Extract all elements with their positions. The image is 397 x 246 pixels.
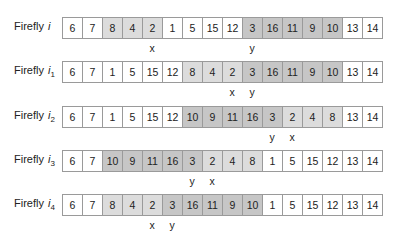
permutation-cell: 14 [363,151,383,171]
position-marker-x: x [222,86,242,98]
permutation-cell: 6 [63,18,83,38]
permutation-cell: 4 [223,151,243,171]
permutation-cell: 15 [143,62,163,82]
permutation-cell: 5 [283,195,303,215]
permutation-cell: 3 [243,18,263,38]
permutation-cells: 67109111632481515121314 [62,150,383,172]
permutation-cell: 4 [203,62,223,82]
permutation-cell: 16 [163,151,183,171]
permutation-cell: 7 [83,18,103,38]
permutation-cell: 6 [63,107,83,127]
permutation-cell: 11 [283,18,303,38]
permutation-cell: 8 [323,107,343,127]
row-label-subscript: 2 [50,115,54,124]
permutation-cell: 5 [283,151,303,171]
permutation-cell: 3 [263,107,283,127]
permutation-cell: 8 [103,18,123,38]
permutation-cells: 67842316119101515121314 [62,194,383,216]
row-label: Fireflyi4 [14,197,55,212]
permutation-cell: 11 [223,107,243,127]
permutation-cell: 6 [63,151,83,171]
position-marker-y: y [182,175,202,187]
position-marker-y: y [162,219,182,231]
permutation-cell: 14 [363,18,383,38]
permutation-cell: 15 [143,107,163,127]
permutation-cell: 12 [223,18,243,38]
permutation-cell: 10 [183,107,203,127]
permutation-cell: 14 [363,62,383,82]
permutation-cell: 13 [343,107,363,127]
permutation-cell: 12 [163,62,183,82]
permutation-cell: 12 [163,107,183,127]
permutation-cell: 2 [143,195,163,215]
row-label-subscript: 3 [50,159,54,168]
permutation-cell: 11 [143,151,163,171]
permutation-cell: 1 [263,151,283,171]
permutation-cell: 3 [243,62,263,82]
permutation-cells: 67842151512316119101314 [62,17,383,39]
row-label-prefix: Firefly [14,197,44,209]
permutation-cell: 13 [343,151,363,171]
permutation-cell: 14 [363,195,383,215]
permutation-cell: 6 [63,62,83,82]
permutation-cell: 8 [103,195,123,215]
permutation-cell: 7 [83,195,103,215]
position-marker-x: x [282,131,302,143]
permutation-cell: 7 [83,107,103,127]
permutation-cell: 9 [203,107,223,127]
row-label-prefix: Firefly [14,64,44,76]
permutation-cell: 9 [123,151,143,171]
row-label-prefix: Firefly [14,20,44,32]
permutation-cells: 67151512842316119101314 [62,61,383,83]
row-label-prefix: Firefly [14,153,44,165]
permutation-cell: 15 [303,151,323,171]
row-label: Fireflyi2 [14,109,55,124]
permutation-cell: 11 [203,195,223,215]
firefly-row: Fireflyi167151512842316119101314 [0,61,397,83]
permutation-cell: 13 [343,62,363,82]
permutation-cell: 2 [223,62,243,82]
firefly-row: Fireflyi267151512109111632481314 [0,106,397,128]
permutation-cell: 16 [263,62,283,82]
permutation-cell: 1 [103,107,123,127]
position-marker-x: x [142,42,162,54]
permutation-cell: 1 [163,18,183,38]
permutation-cell: 16 [183,195,203,215]
firefly-row: Fireflyi67842151512316119101314 [0,17,397,39]
permutation-cell: 13 [343,18,363,38]
permutation-cell: 2 [143,18,163,38]
permutation-cell: 7 [83,151,103,171]
permutation-cell: 2 [283,107,303,127]
row-label-subscript: 4 [50,203,54,212]
row-label-symbol: i3 [48,153,55,165]
permutation-cell: 6 [63,195,83,215]
position-marker-y: y [242,86,262,98]
permutation-cell: 5 [183,18,203,38]
permutation-cell: 2 [203,151,223,171]
permutation-cell: 5 [123,62,143,82]
permutation-cell: 4 [123,18,143,38]
position-marker-x: x [202,175,222,187]
row-label-symbol: i [48,20,50,32]
row-label: Fireflyi3 [14,153,55,168]
permutation-cell: 13 [343,195,363,215]
firefly-row: Fireflyi367109111632481515121314 [0,150,397,172]
permutation-cell: 4 [123,195,143,215]
permutation-cells: 67151512109111632481314 [62,106,383,128]
permutation-cell: 16 [243,107,263,127]
row-label-prefix: Firefly [14,109,44,121]
permutation-cell: 12 [323,195,343,215]
firefly-row: Fireflyi467842316119101515121314 [0,194,397,216]
position-marker-x: x [142,219,162,231]
permutation-cell: 10 [323,18,343,38]
permutation-cell: 15 [303,195,323,215]
permutation-cell: 3 [163,195,183,215]
permutation-cell: 15 [203,18,223,38]
permutation-cell: 1 [263,195,283,215]
row-label-symbol: i1 [48,64,55,76]
permutation-cell: 9 [223,195,243,215]
permutation-cell: 10 [103,151,123,171]
permutation-cell: 16 [263,18,283,38]
permutation-cell: 1 [103,62,123,82]
position-marker-y: y [242,42,262,54]
